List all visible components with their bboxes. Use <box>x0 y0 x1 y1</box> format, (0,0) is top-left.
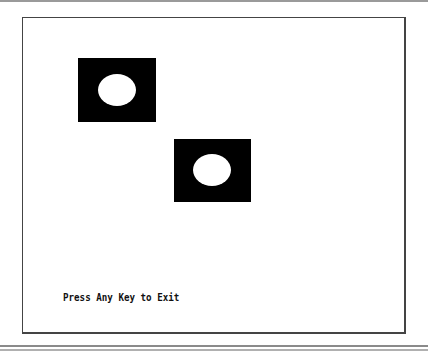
top-border <box>0 0 428 2</box>
bottom-border-1 <box>0 345 428 347</box>
sprite-block-1 <box>78 58 156 122</box>
circle-hole-2 <box>193 154 231 186</box>
exit-prompt: Press Any Key to Exit <box>63 292 179 303</box>
sprite-block-2 <box>174 139 251 202</box>
circle-hole-1 <box>98 74 136 106</box>
bottom-border-2 <box>0 349 428 351</box>
